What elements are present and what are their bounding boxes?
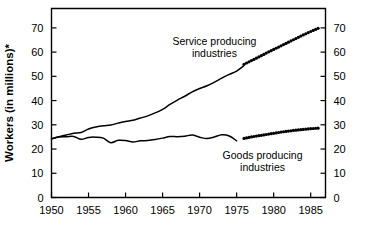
- y-axis-left-labels: 010203040506070: [31, 22, 43, 204]
- x-tick-label: 1960: [113, 204, 137, 216]
- x-tick-label: 1950: [39, 204, 63, 216]
- y-axis-right-ticks: [321, 28, 326, 198]
- y-axis-right-labels: 010203040506070: [334, 22, 346, 204]
- projection-dot: [316, 127, 319, 130]
- annotation-line-2: industries: [240, 161, 285, 173]
- y-axis-left-ticks: [52, 28, 57, 198]
- series-service-producing-line: [52, 65, 245, 138]
- y-tick-label-right: 20: [334, 143, 346, 155]
- y-tick-label-left: 60: [31, 46, 43, 58]
- y-axis-title: Workers (in millions)*: [3, 43, 15, 162]
- x-axis-ticks: [52, 193, 311, 198]
- series-annotation: Service producingindustries: [172, 35, 256, 59]
- y-tick-label-left: 30: [31, 119, 43, 131]
- x-axis-labels: 19501955196019651970197519801985: [39, 204, 323, 216]
- chart-container: 010203040506070 010203040506070 19501955…: [0, 0, 371, 232]
- x-tick-label: 1965: [150, 204, 174, 216]
- y-tick-label-left: 50: [31, 70, 43, 82]
- x-tick-label: 1985: [298, 204, 322, 216]
- y-tick-label-right: 0: [334, 192, 340, 204]
- line-chart: 010203040506070 010203040506070 19501955…: [0, 0, 371, 232]
- y-tick-label-left: 0: [37, 192, 43, 204]
- x-tick-label: 1975: [224, 204, 248, 216]
- series-goods-producing-line: [52, 135, 237, 143]
- y-tick-label-left: 10: [31, 167, 43, 179]
- y-tick-label-right: 40: [334, 95, 346, 107]
- annotation-line-1: Goods producing: [223, 149, 303, 161]
- y-tick-label-right: 70: [334, 22, 346, 34]
- projection-dot: [316, 27, 319, 30]
- y-tick-label-left: 20: [31, 143, 43, 155]
- y-tick-label-right: 30: [334, 119, 346, 131]
- annotation-line-1: Service producing: [172, 35, 256, 47]
- y-tick-label-right: 50: [334, 70, 346, 82]
- series-annotation: Goods producingindustries: [223, 149, 303, 173]
- annotation-line-2: industries: [192, 47, 237, 59]
- y-tick-label-left: 40: [31, 95, 43, 107]
- series-goods-producing-projection-dots: [242, 127, 319, 140]
- x-tick-label: 1980: [261, 204, 285, 216]
- y-tick-label-left: 70: [31, 22, 43, 34]
- x-tick-label: 1955: [76, 204, 100, 216]
- y-tick-label-right: 10: [334, 167, 346, 179]
- y-tick-label-right: 60: [334, 46, 346, 58]
- annotation-layer: Service producingindustriesGoods produci…: [172, 35, 302, 173]
- x-tick-label: 1970: [187, 204, 211, 216]
